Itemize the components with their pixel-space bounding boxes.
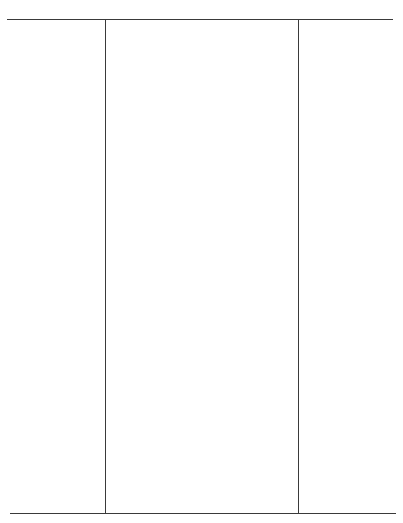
table-column-3: [299, 20, 393, 513]
table-bottom-rule: [10, 513, 396, 514]
table-column-2: [106, 20, 298, 513]
table-column-1: [7, 20, 105, 513]
